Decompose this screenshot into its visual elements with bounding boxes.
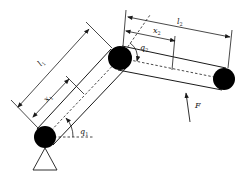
label-q1: q1 (80, 127, 88, 137)
label-q2: q2 (140, 43, 148, 53)
label-l1: l1 (36, 58, 47, 69)
manipulator-diagram: l1 x1 q1 l2 x2 q2 F (0, 0, 241, 182)
label-x1: x1 (42, 92, 55, 104)
elbow-joint (108, 46, 132, 70)
label-l2: l2 (177, 17, 183, 27)
base-joint (34, 126, 56, 148)
label-x2: x2 (153, 26, 161, 36)
arrow-up-icon (186, 93, 190, 122)
end-joint (213, 68, 235, 90)
triangle-support-icon (33, 148, 57, 170)
dimension-l1 (11, 22, 112, 128)
dimension-x2 (126, 31, 175, 70)
label-force: F (194, 101, 201, 110)
